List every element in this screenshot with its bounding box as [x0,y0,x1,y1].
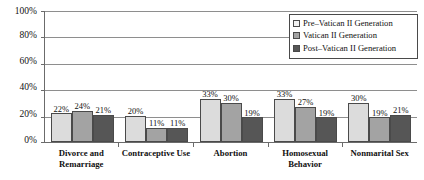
bar-slot: 11% [167,11,188,142]
x-label-contraceptive-use: Contraceptive Use [119,148,194,180]
legend-label: Post–Vatican II Generation [303,44,396,53]
x-tick-1 [118,143,119,147]
bar-vatican-ii: 19% [369,117,390,142]
bar-value-label: 22% [53,105,69,114]
bar-pre-vatican-ii: 30% [348,103,369,142]
bar-vatican-ii: 27% [295,107,316,142]
bar-value-label: 33% [277,90,293,99]
bar-slot: 33% [200,11,221,142]
bar-slot: 21% [93,11,114,142]
legend-label: Pre–Vatican II Generation [303,19,393,28]
bar-slot: 11% [146,11,167,142]
bar-pre-vatican-ii: 20% [125,116,146,142]
x-tick-3 [268,143,269,147]
bar-value-label: 21% [393,106,409,115]
bar-pre-vatican-ii: 33% [274,99,295,142]
bar-pre-vatican-ii: 33% [200,99,221,142]
legend-item-post-vatican-ii: Post–Vatican II Generation [293,42,414,55]
bar-value-label: 30% [351,94,367,103]
bar-chart: 100% 80% 60% 40% 20% 0% 22% [0,0,424,180]
x-label-divorce-and-remarriage: Divorce and Remarriage [44,148,119,180]
bar-slot: 19% [242,11,263,142]
bar-slot: 22% [51,11,72,142]
y-tick-label-0: 0% [24,136,37,146]
y-tick-label-20: 20% [20,110,37,120]
y-tick-label-100: 100% [15,7,37,17]
y-tick-0 [41,142,45,143]
bar-value-label: 11% [149,119,164,128]
x-axis: Divorce and Remarriage Contraceptive Use… [44,148,417,180]
bar-value-label: 33% [202,90,218,99]
legend-swatch-icon [293,45,300,52]
bar-value-label: 27% [298,98,314,107]
bar-vatican-ii: 11% [146,128,167,142]
x-label-abortion: Abortion [193,148,268,180]
y-axis: 100% 80% 60% 40% 20% 0% [0,0,42,146]
bar-post-vatican-ii: 21% [93,115,114,143]
bar-value-label: 30% [223,94,239,103]
bar-value-label: 24% [74,102,90,111]
bar-value-label: 11% [170,119,185,128]
bar-post-vatican-ii: 19% [316,117,337,142]
x-tick-4 [342,143,343,147]
bar-slot: 30% [221,11,242,142]
bar-value-label: 19% [372,109,388,118]
bar-value-label: 19% [244,109,260,118]
x-label-nonmarital-sex: Nonmarital Sex [342,148,417,180]
legend-swatch-icon [293,32,300,39]
bar-value-label: 21% [95,106,111,115]
legend-label: Vatican II Generation [303,31,377,40]
legend-item-vatican-ii: Vatican II Generation [293,30,414,43]
bar-group-divorce-and-remarriage: 22% 24% 21% [45,11,119,142]
y-tick-label-60: 60% [20,57,37,67]
x-tick-2 [193,143,194,147]
y-tick-label-80: 80% [20,31,37,41]
bar-slot: 20% [125,11,146,142]
bar-value-label: 20% [128,107,144,116]
legend-swatch-icon [293,20,300,27]
bar-post-vatican-ii: 21% [390,115,411,143]
bar-vatican-ii: 30% [221,103,242,142]
bar-value-label: 19% [319,109,335,118]
bar-group-contraceptive-use: 20% 11% 11% [119,11,193,142]
bar-group-abortion: 33% 30% 19% [194,11,268,142]
legend-item-pre-vatican-ii: Pre–Vatican II Generation [293,17,414,30]
bar-vatican-ii: 24% [72,111,93,142]
bar-post-vatican-ii: 11% [167,128,188,142]
bar-post-vatican-ii: 19% [242,117,263,142]
x-label-homosexual-behavior: Homosexual Behavior [268,148,343,180]
bar-pre-vatican-ii: 22% [51,113,72,142]
bar-slot: 24% [72,11,93,142]
legend: Pre–Vatican II Generation Vatican II Gen… [289,14,418,59]
y-tick-label-40: 40% [20,83,37,93]
